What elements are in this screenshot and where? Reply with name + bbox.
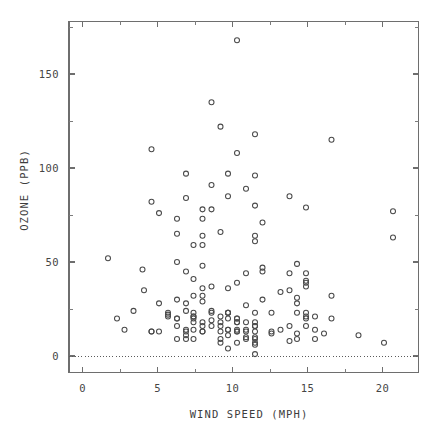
y-tick-label: 150 <box>39 68 59 80</box>
chart-canvas: 05101520 050100150 WIND SPEED (MPH) OZON… <box>0 0 443 447</box>
plot-background <box>0 0 443 447</box>
y-tick-label: 50 <box>46 256 59 268</box>
x-tick-label: 15 <box>301 382 314 394</box>
x-tick-label: 10 <box>226 382 239 394</box>
scatter-plot-figure: 05101520 050100150 WIND SPEED (MPH) OZON… <box>0 0 443 447</box>
x-tick-label: 5 <box>154 382 161 394</box>
x-tick-label: 0 <box>79 382 86 394</box>
y-tick-label: 100 <box>39 162 59 174</box>
y-axis-title: OZONE (PPB) <box>18 149 30 231</box>
y-tick-label: 0 <box>52 350 59 362</box>
x-axis-title: WIND SPEED (MPH) <box>190 408 309 420</box>
x-tick-label: 20 <box>376 382 389 394</box>
